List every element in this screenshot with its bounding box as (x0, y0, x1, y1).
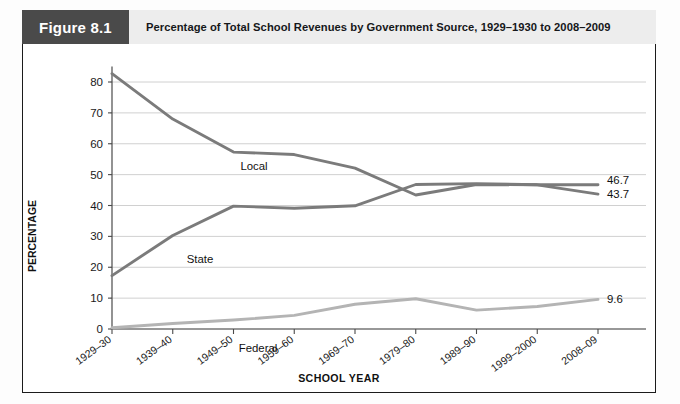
x-tick-label: 1929–30 (73, 333, 114, 367)
series-line-state (112, 184, 598, 276)
figure-header: Figure 8.1 Percentage of Total School Re… (22, 10, 656, 44)
series-line-federal (112, 299, 598, 328)
y-tick-label: 0 (97, 323, 103, 335)
y-tick-label: 40 (90, 200, 103, 212)
y-tick-label: 70 (90, 107, 103, 119)
y-tick-label: 30 (90, 230, 103, 242)
y-tick-label: 60 (90, 138, 103, 150)
y-tick-label: 80 (90, 76, 103, 88)
gridlines (110, 82, 646, 329)
series-end-labels: 43.746.79.6 (607, 174, 629, 306)
x-tick-labels: 1929–301939–401949–501959–601969–701979–… (73, 333, 600, 374)
figure-number-text: Figure 8.1 (39, 19, 112, 36)
figure-title: Percentage of Total School Revenues by G… (146, 21, 611, 33)
figure-number-badge: Figure 8.1 (22, 10, 129, 44)
end-label-federal: 9.6 (607, 293, 623, 305)
x-tick-label: 1989–90 (437, 333, 478, 367)
series-lines (112, 74, 598, 328)
series-label-local: Local (240, 160, 267, 172)
x-axis-title: SCHOOL YEAR (298, 372, 380, 384)
y-axis-title: PERCENTAGE (26, 200, 38, 272)
x-tick-marks (112, 329, 598, 334)
figure-title-bar: Percentage of Total School Revenues by G… (129, 10, 656, 44)
end-label-state: 46.7 (607, 174, 629, 186)
y-tick-label: 20 (90, 261, 103, 273)
chart-plot-area: 01020304050607080 1929–301939–401949–501… (22, 44, 656, 393)
line-chart: 01020304050607080 1929–301939–401949–501… (22, 44, 656, 393)
y-tick-label: 10 (90, 292, 103, 304)
figure-root: Figure 8.1 Percentage of Total School Re… (0, 0, 680, 404)
x-tick-label: 1939–40 (134, 333, 175, 367)
x-tick-label: 1949–50 (194, 333, 235, 367)
series-inline-labels: LocalStateFederal (187, 160, 278, 354)
end-label-local: 43.7 (607, 188, 629, 200)
series-line-local (112, 74, 598, 195)
x-tick-label: 1999–2000 (488, 333, 538, 374)
series-label-state: State (187, 253, 214, 265)
series-label-federal: Federal (239, 342, 278, 354)
x-tick-label: 1979–80 (377, 333, 418, 367)
y-tick-label: 50 (90, 169, 103, 181)
y-tick-labels: 01020304050607080 (90, 76, 112, 335)
x-tick-label: 1969–70 (316, 333, 357, 367)
x-tick-label: 2008–09 (559, 333, 600, 367)
